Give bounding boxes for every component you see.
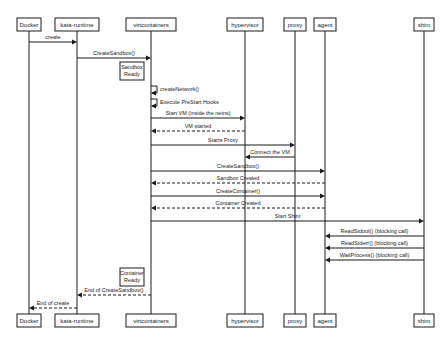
participant-label: virtcontainers (133, 22, 169, 28)
participant-label: shim (418, 318, 431, 324)
message: Connect the VM (245, 149, 295, 160)
message-label: End of CreateSandbox() (84, 287, 143, 293)
participant-label: agent (317, 318, 332, 324)
arrowhead (77, 293, 82, 298)
arrowhead (325, 258, 330, 263)
message: Execute PreStart Hooks (151, 99, 219, 109)
participant-virtcontainers-top: virtcontainers (126, 18, 176, 31)
message: createNetwork() (151, 86, 199, 96)
message: End of create (29, 300, 77, 311)
participant-label: Docker (19, 318, 38, 324)
message: CreateSandbox() (77, 50, 151, 61)
participant-hypervisor-top: hypervisor (227, 18, 263, 31)
arrowhead (320, 169, 325, 174)
participant-kata-runtime-top: kata-runtime (55, 18, 99, 31)
message-label: CreateContainer() (216, 188, 260, 194)
participant-label: agent (317, 22, 332, 28)
arrowhead (151, 181, 156, 186)
message-label: WaitProcess() (blocking call) (340, 252, 410, 258)
note: ContainerReady (120, 268, 144, 286)
message-label: CreateSandbox() (93, 50, 135, 56)
arrowhead (72, 40, 77, 45)
participant-proxy-bottom: proxy (284, 314, 306, 327)
arrowhead (151, 104, 156, 109)
participant-agent-top: agent (314, 18, 336, 31)
message: Sandbox Created (151, 175, 325, 186)
note-text: Ready (124, 71, 140, 77)
participant-hypervisor-bottom: hypervisor (227, 314, 263, 327)
arrowhead (325, 234, 330, 239)
message-label: End of create (37, 300, 70, 306)
message-label: CreateSandbox() (217, 163, 259, 169)
arrowhead (325, 246, 330, 251)
participant-label: hypervisor (231, 318, 259, 324)
arrowhead (146, 56, 151, 61)
message: CreateSandbox() (151, 163, 325, 174)
message-label: Start Shim (275, 213, 301, 219)
participant-docker-bottom: Docker (17, 314, 41, 327)
participant-label: proxy (288, 22, 303, 28)
message-label: Container Created (216, 200, 261, 206)
message-label: Connect the VM (250, 149, 290, 155)
arrowhead (320, 194, 325, 199)
participant-label: hypervisor (231, 22, 259, 28)
message: Container Created (151, 200, 325, 211)
message: create (29, 34, 77, 45)
note-text: Ready (124, 277, 140, 283)
arrowhead (290, 143, 295, 148)
message-label: ReadStdout() (blocking call) (341, 228, 409, 234)
participant-label: proxy (288, 318, 303, 324)
participant-shim-top: shim (414, 18, 434, 31)
message-label: Execute PreStart Hooks (160, 99, 219, 105)
participant-label: kata-runtime (60, 318, 94, 324)
participant-label: shim (418, 22, 431, 28)
message-label: VM started (185, 123, 212, 129)
message: Start VM (inside the netns) (151, 110, 245, 121)
participant-label: kata-runtime (60, 22, 94, 28)
participant-label: Docker (19, 22, 38, 28)
message-label: ReadStderr() (blocking call) (341, 240, 408, 246)
message: Start Shim (151, 213, 424, 224)
arrowhead (151, 129, 156, 134)
message-label: Start VM (inside the netns) (165, 110, 230, 116)
message-label: create (45, 34, 60, 40)
participant-virtcontainers-bottom: virtcontainers (126, 314, 176, 327)
participant-docker-top: Docker (17, 18, 41, 31)
sequence-diagram: Dockerkata-runtimevirtcontainershypervis… (0, 0, 446, 345)
message: WaitProcess() (blocking call) (325, 252, 424, 263)
note: SandboxReady (120, 62, 144, 80)
message: CreateContainer() (151, 188, 325, 199)
arrowhead (419, 219, 424, 224)
message-label: Sandbox Created (217, 175, 260, 181)
note-text: Sandbox (121, 64, 143, 70)
arrowhead (29, 306, 34, 311)
participant-agent-bottom: agent (314, 314, 336, 327)
message-label: createNetwork() (160, 86, 199, 92)
arrowhead (151, 206, 156, 211)
arrowhead (240, 116, 245, 121)
message: End of CreateSandbox() (77, 287, 151, 298)
message: ReadStdout() (blocking call) (325, 228, 424, 239)
participant-shim-bottom: shim (414, 314, 434, 327)
message-label: Starts Proxy (208, 137, 238, 143)
message: ReadStderr() (blocking call) (325, 240, 424, 251)
message: VM started (151, 123, 245, 134)
message: Starts Proxy (151, 137, 295, 148)
note-text: Container (120, 270, 144, 276)
arrowhead (151, 91, 156, 96)
arrowhead (245, 155, 250, 160)
participant-proxy-top: proxy (284, 18, 306, 31)
participant-label: virtcontainers (133, 318, 169, 324)
participant-kata-runtime-bottom: kata-runtime (55, 314, 99, 327)
